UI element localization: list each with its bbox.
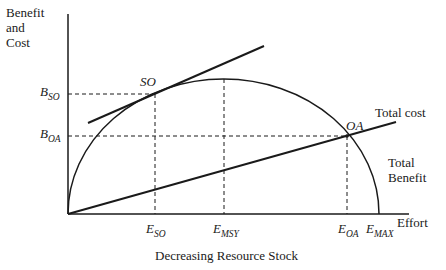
b-oa-main: B bbox=[40, 126, 48, 141]
e-oa-sub: OA bbox=[346, 229, 359, 239]
e-oa-label: EOA bbox=[338, 221, 359, 238]
b-so-main: B bbox=[40, 84, 48, 99]
y-axis-label-line-1: Benefit bbox=[6, 5, 44, 20]
y-axis-label: Benefit and Cost bbox=[6, 5, 44, 50]
total-benefit-label-line-1: Total bbox=[388, 155, 426, 170]
e-msy-label: EMSY bbox=[213, 221, 239, 238]
total-cost-label: Total cost bbox=[375, 105, 426, 120]
b-so-label: BSO bbox=[40, 84, 60, 101]
y-axis-label-line-2: and bbox=[6, 20, 44, 35]
b-oa-sub: OA bbox=[48, 134, 61, 144]
so-tangent-line bbox=[88, 46, 264, 123]
e-msy-main: E bbox=[213, 221, 221, 236]
b-so-sub: SO bbox=[48, 92, 60, 102]
total-benefit-label-line-2: Benefit bbox=[388, 170, 426, 185]
x-axis-label: Effort bbox=[397, 215, 428, 230]
so-point-label: SO bbox=[140, 74, 156, 89]
y-axis-label-line-3: Cost bbox=[6, 35, 44, 50]
caption: Decreasing Resource Stock bbox=[155, 248, 298, 263]
e-oa-main: E bbox=[338, 221, 346, 236]
e-so-main: E bbox=[146, 221, 154, 236]
e-so-sub: SO bbox=[154, 229, 166, 239]
b-oa-label: BOA bbox=[40, 126, 61, 143]
e-so-label: ESO bbox=[146, 221, 166, 238]
oa-point-marker bbox=[345, 134, 349, 138]
e-max-sub: MAX bbox=[374, 229, 394, 239]
total-benefit-label: Total Benefit bbox=[388, 155, 426, 185]
e-max-label: EMAX bbox=[366, 221, 393, 238]
e-max-main: E bbox=[366, 221, 374, 236]
e-msy-sub: MSY bbox=[221, 229, 239, 239]
oa-point-label: OA bbox=[346, 118, 363, 133]
